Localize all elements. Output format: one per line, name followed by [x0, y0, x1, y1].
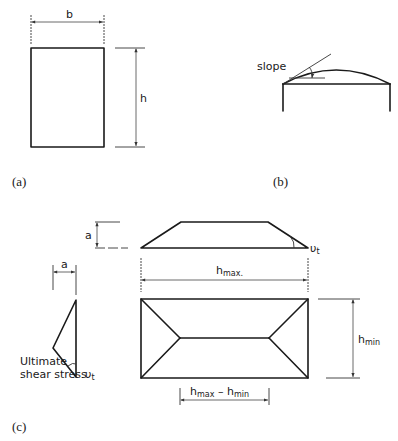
label-hmin: hmin	[358, 333, 380, 347]
dimension-hmin: hmin	[318, 299, 380, 378]
curved-profile	[283, 70, 390, 84]
panel-c: υt a hmax. a	[12, 222, 380, 434]
diagram-canvas: b h (a) slope (b) υt	[0, 0, 398, 441]
label-b: b	[66, 8, 73, 21]
dimension-a-vertical: a	[85, 222, 128, 248]
shear-stress-label: Ultimate shear stress υt	[20, 355, 95, 382]
angle-arc-left	[68, 363, 76, 366]
label-ultimate: Ultimate	[20, 355, 67, 368]
dimension-hmax: hmax.	[141, 258, 308, 292]
dimension-h: h	[115, 48, 147, 147]
rectangle-section	[31, 48, 104, 147]
caption-c: (c)	[12, 419, 26, 434]
angle-symbol-left: υt	[85, 368, 95, 382]
label-hmax: hmax.	[216, 264, 243, 278]
dimension-b: b	[31, 8, 104, 44]
label-h: h	[140, 92, 147, 105]
label-a-left: a	[61, 258, 68, 271]
panel-b: slope (b)	[257, 54, 390, 189]
dimension-a-horizontal: a	[53, 258, 76, 295]
dimension-hmax-minus-hmin: hmax – hmin	[180, 385, 269, 405]
panel-a: b h (a)	[12, 8, 147, 189]
trapezoid-elevation: υt	[141, 222, 320, 256]
caption-a: (a)	[12, 174, 26, 189]
label-hmax-hmin: hmax – hmin	[190, 385, 249, 399]
label-shear-stress: shear stress	[20, 368, 87, 381]
plan-rectangle	[141, 299, 308, 378]
tangent-line	[283, 54, 331, 84]
label-a-top: a	[85, 229, 92, 242]
label-slope: slope	[257, 60, 286, 73]
caption-b: (b)	[273, 174, 288, 189]
angle-symbol-top: υt	[310, 242, 320, 256]
